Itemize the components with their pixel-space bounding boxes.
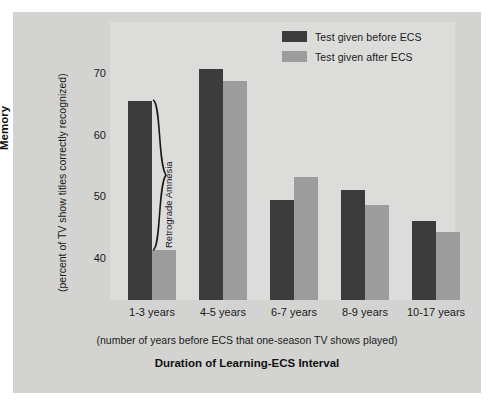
x-tick-label-1-3-years: 1-3 years	[129, 306, 175, 318]
x-tick-label-6-7-years: 6-7 years	[271, 306, 317, 318]
bar-10-17-years-after	[436, 232, 460, 300]
chart-screenshot: Test given before ECS Test given after E…	[0, 0, 494, 405]
bar-1-3-years-after	[152, 250, 176, 300]
bar-4-5-years-after	[223, 81, 247, 300]
x-axis-title: Duration of Learning-ECS Interval	[0, 357, 494, 369]
x-tick-label-10-17-years: 10-17 years	[407, 306, 465, 318]
bar-1-3-years-before	[128, 101, 152, 300]
bar-4-5-years-before	[199, 69, 223, 300]
bar-6-7-years-after	[294, 177, 318, 300]
bar-8-9-years-after	[365, 205, 389, 300]
bar-6-7-years-before	[270, 200, 294, 300]
x-tick-label-4-5-years: 4-5 years	[200, 306, 246, 318]
x-tick-label-8-9-years: 8-9 years	[342, 306, 388, 318]
x-axis-subtitle: (number of years before ECS that one-sea…	[0, 334, 494, 346]
bar-10-17-years-before	[412, 221, 436, 300]
bar-8-9-years-before	[341, 190, 365, 300]
retrograde-amnesia-label: Retrograde Amnesia	[163, 161, 174, 248]
